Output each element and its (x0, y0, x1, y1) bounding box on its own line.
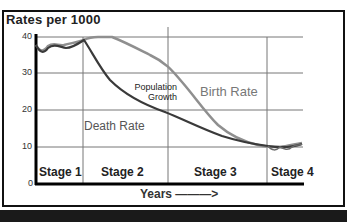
gridlines (36, 27, 303, 184)
birth-rate-label: Birth Rate (200, 84, 258, 99)
stage-2-label: Stage 2 (101, 165, 144, 179)
death-rate-label: Death Rate (84, 119, 145, 133)
y-tick-0: 0 (19, 178, 33, 188)
y-tick-30: 30 (18, 67, 32, 77)
population-growth-label: Population Growth (127, 82, 177, 102)
chart-title: Rates per 1000 (6, 12, 101, 27)
population-growth-line1: Population (127, 82, 177, 92)
stage-4-label: Stage 4 (271, 165, 314, 179)
stage-1-label: Stage 1 (39, 165, 82, 179)
population-growth-line2: Growth (127, 92, 177, 102)
stage-3-label: Stage 3 (194, 165, 237, 179)
y-tick-10: 10 (18, 141, 32, 151)
y-tick-20: 20 (18, 104, 32, 114)
x-axis-label: Years ———> (140, 187, 218, 201)
y-tick-40: 40 (18, 31, 32, 41)
